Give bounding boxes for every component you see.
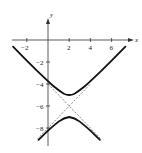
x-axis-arrow-icon	[128, 38, 134, 42]
asymptote-line	[48, 84, 101, 139]
hyperbola-chart: −2 2 4 6 x −2 −4 −6 −8 y	[0, 0, 142, 153]
x-tick-label: −2	[21, 44, 29, 52]
y-tick-label: −2	[36, 59, 44, 67]
x-tick-label: 2	[67, 44, 71, 52]
x-tick-label: 6	[110, 44, 114, 52]
x-axis-label: x	[134, 36, 139, 44]
asymptote-line	[37, 84, 90, 139]
x-axis: −2 2 4 6 x	[12, 36, 139, 52]
y-axis-label: y	[49, 11, 54, 19]
x-tick-label: 4	[89, 44, 93, 52]
y-tick-label: −6	[36, 103, 44, 111]
y-tick-label: −8	[36, 125, 44, 133]
upper-branch-curve	[13, 47, 125, 95]
y-tick-label: −4	[36, 81, 44, 89]
